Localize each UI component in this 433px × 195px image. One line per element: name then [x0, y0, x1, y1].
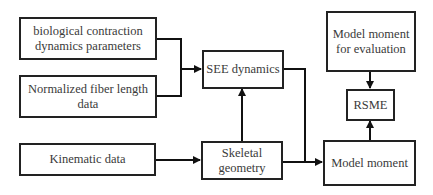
skeletal-line1: Skeletal — [218, 146, 265, 161]
model-moment-label: Model moment — [331, 156, 408, 171]
fiber-length-box: Normalized fiber length data — [19, 75, 157, 118]
rsme-label: RSME — [353, 98, 387, 113]
eval-moment-box: Model moment for evaluation — [326, 11, 416, 72]
rsme-box: RSME — [346, 89, 395, 121]
fiber-length-line1: Normalized fiber length — [28, 82, 148, 97]
eval-moment-line2: for evaluation — [333, 42, 410, 57]
skeletal-line2: geometry — [218, 161, 265, 176]
skeletal-geometry-box: Skeletal geometry — [201, 141, 283, 180]
see-output-connector — [283, 69, 305, 162]
bio-params-line2: dynamics parameters — [33, 39, 142, 54]
eval-moment-line1: Model moment — [333, 27, 410, 42]
merge-connector — [156, 39, 181, 96]
model-moment-box: Model moment — [323, 140, 416, 186]
bio-params-box: biological contraction dynamics paramete… — [19, 17, 157, 60]
kinematic-label: Kinematic data — [49, 152, 125, 167]
see-dynamics-box: SEE dynamics — [202, 50, 284, 89]
kinematic-box: Kinematic data — [19, 143, 156, 176]
see-dynamics-label: SEE dynamics — [206, 62, 279, 77]
bio-params-line1: biological contraction — [33, 24, 142, 39]
fiber-length-line2: data — [28, 97, 148, 112]
